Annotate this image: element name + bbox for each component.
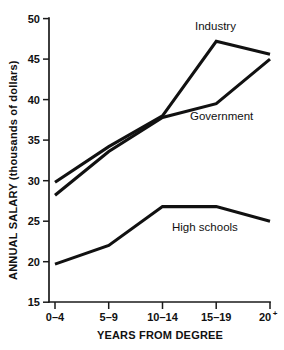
- y-axis-title: ANNUAL SALARY (thousands of dollars): [7, 60, 19, 280]
- y-tick-label-30: 30: [28, 175, 40, 187]
- x-tick-label-5-9: 5–9: [100, 311, 118, 323]
- chart-plot-area: 50 45 40 35 30 25 20 15 0–4 5–9 10–14 15…: [0, 0, 284, 350]
- x-tick-label-20-plus-superscript: +: [273, 309, 278, 318]
- x-tick-label-10-14: 10–14: [147, 311, 178, 323]
- y-tick-label-25: 25: [28, 215, 40, 227]
- x-tick-label-15-19: 15–19: [201, 311, 232, 323]
- x-axis-title: YEARS FROM DEGREE: [97, 329, 223, 341]
- series-label-government: Government: [190, 110, 254, 122]
- salary-line-chart: 50 45 40 35 30 25 20 15 0–4 5–9 10–14 15…: [0, 0, 284, 350]
- y-tick-label-20: 20: [28, 256, 40, 268]
- series-label-high-schools: High schools: [172, 221, 238, 233]
- y-axis-ticks: [43, 19, 49, 303]
- x-tick-label-20-plus: 20: [259, 311, 271, 323]
- series-label-industry: Industry: [195, 20, 236, 32]
- y-tick-label-40: 40: [28, 94, 40, 106]
- x-axis-ticks: [55, 302, 270, 309]
- y-tick-label-35: 35: [28, 134, 40, 146]
- series-line-government: [55, 59, 270, 195]
- y-tick-label-45: 45: [28, 53, 40, 65]
- series-line-high-schools: [55, 207, 270, 265]
- x-tick-label-0-4: 0–4: [46, 311, 65, 323]
- y-tick-label-50: 50: [28, 13, 40, 25]
- y-tick-label-15: 15: [28, 296, 40, 308]
